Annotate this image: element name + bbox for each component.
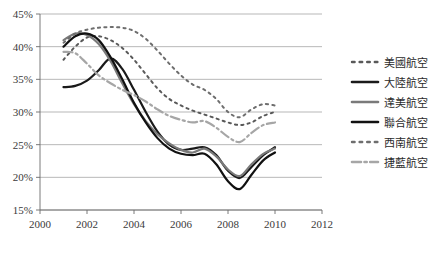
chart-legend: 美國航空大陸航空達美航空聯合航空西南航空捷藍航空	[352, 56, 428, 170]
x-tick-label: 2004	[123, 218, 146, 230]
series-lines	[64, 27, 276, 189]
legend-label-3: 聯合航空	[384, 116, 428, 130]
series-line-5	[64, 52, 276, 142]
series-line-1	[64, 58, 276, 178]
series-line-2	[64, 33, 276, 176]
x-tick-label: 2006	[170, 218, 193, 230]
legend-label-4: 西南航空	[384, 136, 428, 150]
x-axis	[40, 210, 322, 214]
x-tick-label: 2010	[264, 218, 287, 230]
y-tick-label: 20%	[13, 171, 33, 183]
y-tick-label: 40%	[13, 41, 33, 53]
legend-label-5: 捷藍航空	[384, 156, 428, 170]
legend-label-2: 達美航空	[384, 96, 428, 110]
y-tick-label: 25%	[13, 139, 33, 151]
x-tick-label: 2002	[76, 218, 98, 230]
y-tick-label: 15%	[13, 204, 33, 216]
y-tick-label: 30%	[13, 106, 33, 118]
x-tick-label: 2008	[217, 218, 240, 230]
legend-label-1: 大陸航空	[384, 76, 428, 90]
chart-canvas: 15%20%25%30%35%40%45% 200020022004200620…	[0, 0, 436, 253]
x-tick-label: 2012	[311, 218, 333, 230]
y-tick-label: 45%	[13, 8, 33, 20]
y-axis	[36, 14, 40, 210]
legend-label-0: 美國航空	[384, 56, 428, 70]
x-tick-label: 2000	[29, 218, 52, 230]
y-tick-labels: 15%20%25%30%35%40%45%	[13, 8, 33, 216]
gridlines	[40, 14, 322, 210]
series-line-3	[64, 33, 276, 189]
line-chart: 15%20%25%30%35%40%45% 200020022004200620…	[0, 0, 436, 253]
y-tick-label: 35%	[13, 73, 33, 85]
x-tick-labels: 2000200220042006200820102012	[29, 218, 333, 230]
